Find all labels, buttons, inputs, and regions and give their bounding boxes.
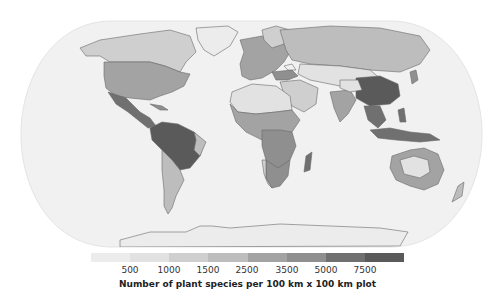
legend-color-bar	[91, 253, 404, 262]
legend-tick: 1000	[158, 265, 181, 275]
legend-tick: 2500	[236, 265, 259, 275]
legend-swatch	[248, 253, 287, 262]
legend-swatch	[91, 253, 130, 262]
legend-tick: 3500	[276, 265, 299, 275]
legend-tick: 500	[121, 265, 138, 275]
legend-swatch	[365, 253, 404, 262]
plant-species-map-figure: 500 1000 1500 2500 3500 5000 7500 Number…	[0, 0, 501, 304]
world-map	[0, 0, 501, 250]
legend-tick: 1500	[197, 265, 220, 275]
legend-title: Number of plant species per 100 km x 100…	[91, 279, 404, 289]
legend-swatch	[130, 253, 169, 262]
legend-swatch	[326, 253, 365, 262]
legend-swatch	[208, 253, 247, 262]
legend: 500 1000 1500 2500 3500 5000 7500 Number…	[91, 253, 404, 279]
legend-tick: 5000	[315, 265, 338, 275]
legend-tick: 7500	[354, 265, 377, 275]
legend-swatch	[287, 253, 326, 262]
legend-tick-labels: 500 1000 1500 2500 3500 5000 7500	[91, 265, 404, 279]
legend-swatch	[169, 253, 208, 262]
